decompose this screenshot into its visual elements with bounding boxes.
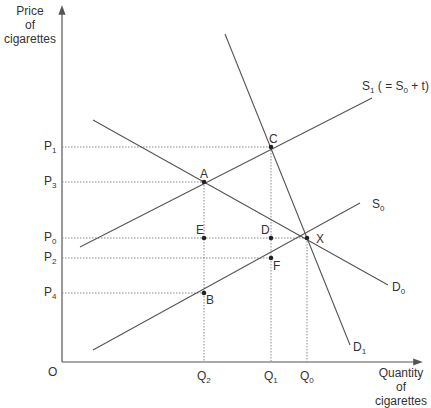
curve-label-d1: D1 [353,341,366,358]
price-label-p2: P2 [44,251,56,268]
point-label-x: X [316,233,324,246]
dotted-guides [62,147,307,362]
supply-curve-s0 [93,203,360,350]
price-label-p0: P0 [44,231,56,248]
price-label-p3: P3 [44,175,56,192]
demand-curve-d1 [225,34,350,345]
curve-label-s1: S1 ( = S0 + t) [362,80,429,97]
curve-label-s0: S0 [372,198,384,215]
x-axis-title: Quantity of cigarettes [372,366,430,408]
y-axis-title: Price of cigarettes [2,4,58,46]
point-label-d: D [261,224,270,237]
point-x [305,236,310,241]
point-label-b: B [206,294,214,307]
curve-label-d0: D0 [392,281,405,298]
supply-curve-s1 [80,98,372,247]
quantity-label-q2: Q2 [197,370,211,387]
origin-label: O [48,366,57,379]
demand-curve-d0 [93,120,388,285]
quantity-label-q1: Q1 [264,370,278,387]
point-label-e: E [196,224,204,237]
point-label-f: F [273,260,280,273]
point-label-a: A [200,168,208,181]
quantity-label-q0: Q0 [300,370,314,387]
price-label-p1: P1 [44,140,56,157]
point-label-c: C [269,133,278,146]
price-label-p4: P4 [44,286,56,303]
